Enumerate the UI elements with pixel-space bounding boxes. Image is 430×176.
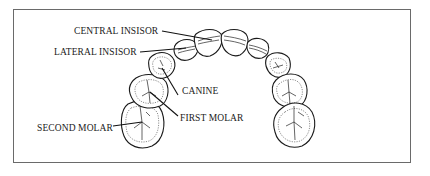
- tooth-left-central-incisor: [194, 30, 222, 57]
- tooth-right-canine: [266, 53, 291, 78]
- label-lateral-incisor: LATERAL INSISOR: [54, 47, 137, 57]
- tooth-left-canine: [149, 53, 175, 79]
- label-second-molar: SECOND MOLAR: [37, 123, 113, 133]
- tooth-right-central-incisor: [221, 30, 248, 56]
- tooth-right-first-molar: [272, 74, 307, 108]
- tooth-right-lateral-incisor: [247, 38, 269, 58]
- label-canine: CANINE: [182, 86, 219, 96]
- label-central-incisor: CENTRAL INSISOR: [74, 26, 159, 36]
- dental-arch-diagram: CENTRAL INSISOR LATERAL INSISOR CANINE F…: [0, 0, 430, 176]
- label-first-molar: FIRST MOLAR: [180, 113, 244, 123]
- tooth-right-second-molar: [274, 103, 315, 147]
